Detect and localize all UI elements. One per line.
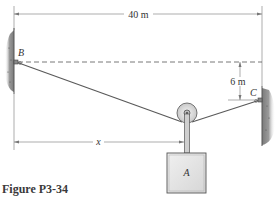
block-a-label: A xyxy=(182,167,190,178)
figure-caption: Figure P3-34 xyxy=(2,182,68,197)
point-b-label: B xyxy=(18,47,24,58)
right-wall xyxy=(262,86,275,146)
x-label: x xyxy=(95,136,101,147)
left-wall xyxy=(5,28,14,94)
diagram-canvas: 40 m 6 m B C x xyxy=(0,0,277,198)
point-c-label: C xyxy=(250,87,257,98)
span-label: 40 m xyxy=(128,9,149,20)
drop-label: 6 m xyxy=(230,76,246,87)
hanger-rod xyxy=(185,114,190,153)
cable-left xyxy=(16,62,182,122)
cable-right xyxy=(192,100,260,122)
